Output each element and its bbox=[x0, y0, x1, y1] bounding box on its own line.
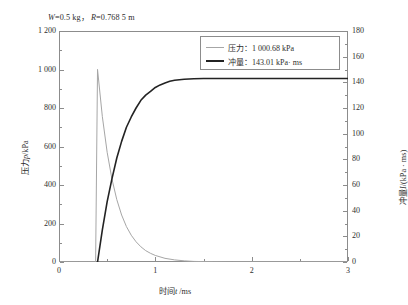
y-axis-left-title: 压力p/kPa bbox=[18, 140, 30, 175]
y-right-minor-tick bbox=[345, 147, 347, 148]
y-left-tick bbox=[60, 147, 64, 148]
y-axis-right-title: 冲量I/(kPa · ms) bbox=[396, 150, 408, 205]
y-left-minor-tick bbox=[60, 204, 62, 205]
y-left-minor-tick bbox=[60, 127, 62, 128]
x-title-pre: 时间 bbox=[159, 287, 175, 296]
y-right-title-symbol: I bbox=[399, 186, 408, 189]
y-right-tick bbox=[343, 108, 347, 109]
x-tick bbox=[252, 257, 253, 261]
title-value-w: =0.5 kg， bbox=[55, 13, 89, 22]
legend-swatch-impulse-icon bbox=[206, 60, 224, 62]
y-left-minor-tick bbox=[60, 89, 62, 90]
y-left-tick-label: 400 bbox=[20, 180, 56, 189]
legend-item-pressure: 压力：1 000.68 kPa bbox=[206, 40, 334, 54]
y-right-tick bbox=[343, 57, 347, 58]
x-tick bbox=[155, 257, 156, 261]
x-minor-tick bbox=[300, 259, 301, 261]
y-right-tick bbox=[343, 82, 347, 83]
title-value-r: =0.768 5 m bbox=[96, 13, 135, 22]
x-minor-tick bbox=[107, 259, 108, 261]
y-left-tick bbox=[60, 31, 64, 32]
y-left-tick-label: 0 bbox=[20, 257, 56, 266]
y-right-minor-tick bbox=[345, 249, 347, 250]
y-right-minor-tick bbox=[345, 44, 347, 45]
y-left-tick-label: 200 bbox=[20, 219, 56, 228]
y-left-tick bbox=[60, 70, 64, 71]
x-tick-label: 1 bbox=[137, 266, 173, 275]
x-title-post: /ms bbox=[177, 287, 191, 296]
y-left-tick bbox=[60, 262, 64, 263]
chart-legend: 压力：1 000.68 kPa 冲量：143.01 kPa· ms bbox=[200, 36, 340, 70]
y-left-tick-label: 1 200 bbox=[20, 26, 56, 35]
legend-item-impulse: 冲量：143.01 kPa· ms bbox=[206, 54, 334, 68]
y-right-tick bbox=[343, 211, 347, 212]
y-right-minor-tick bbox=[345, 224, 347, 225]
chart-title: W=0.5 kg， R=0.768 5 m bbox=[48, 10, 135, 22]
y-right-minor-tick bbox=[345, 198, 347, 199]
y-left-tick bbox=[60, 185, 64, 186]
y-left-minor-tick bbox=[60, 50, 62, 51]
chart-figure: W=0.5 kg， R=0.768 5 m 02004006008001 000… bbox=[0, 0, 408, 305]
y-right-tick-label: 80 bbox=[352, 154, 382, 163]
y-left-tick bbox=[60, 224, 64, 225]
x-tick-label: 2 bbox=[234, 266, 270, 275]
x-tick-label: 0 bbox=[41, 266, 77, 275]
x-axis-title: 时间t /ms bbox=[159, 284, 191, 296]
y-left-title-post: /kPa bbox=[21, 140, 30, 155]
y-right-tick-label: 120 bbox=[352, 103, 382, 112]
y-right-tick-label: 180 bbox=[352, 26, 382, 35]
legend-label-pressure: 压力：1 000.68 kPa bbox=[228, 42, 294, 53]
x-minor-tick bbox=[204, 259, 205, 261]
y-right-tick-label: 20 bbox=[352, 231, 382, 240]
legend-label-impulse: 冲量：143.01 kPa· ms bbox=[228, 56, 302, 67]
y-right-tick-label: 140 bbox=[352, 77, 382, 86]
y-left-minor-tick bbox=[60, 166, 62, 167]
y-right-minor-tick bbox=[345, 95, 347, 96]
y-right-tick bbox=[343, 134, 347, 135]
x-tick bbox=[59, 257, 60, 261]
y-right-tick-label: 100 bbox=[352, 129, 382, 138]
y-left-title-pre: 压力 bbox=[21, 159, 30, 175]
y-right-minor-tick bbox=[345, 121, 347, 122]
y-right-tick-label: 60 bbox=[352, 180, 382, 189]
y-right-tick bbox=[343, 31, 347, 32]
y-right-tick bbox=[343, 262, 347, 263]
y-right-tick-label: 0 bbox=[352, 257, 382, 266]
y-left-tick-label: 1 000 bbox=[20, 65, 56, 74]
title-symbol-w: W bbox=[48, 13, 55, 22]
y-right-tick-label: 40 bbox=[352, 206, 382, 215]
y-left-title-symbol: p bbox=[21, 155, 30, 159]
x-tick-label: 3 bbox=[330, 266, 366, 275]
y-right-title-post: /(kPa · ms) bbox=[399, 150, 408, 186]
y-right-tick-label: 160 bbox=[352, 52, 382, 61]
y-right-tick bbox=[343, 185, 347, 186]
x-tick bbox=[348, 257, 349, 261]
legend-swatch-pressure-icon bbox=[206, 47, 224, 48]
y-left-tick-label: 800 bbox=[20, 103, 56, 112]
y-right-minor-tick bbox=[345, 70, 347, 71]
y-right-tick bbox=[343, 159, 347, 160]
y-left-tick bbox=[60, 108, 64, 109]
y-right-title-pre: 冲量 bbox=[399, 189, 408, 205]
y-right-minor-tick bbox=[345, 172, 347, 173]
series-line-impulse bbox=[59, 78, 348, 262]
y-right-tick bbox=[343, 236, 347, 237]
y-left-minor-tick bbox=[60, 243, 62, 244]
